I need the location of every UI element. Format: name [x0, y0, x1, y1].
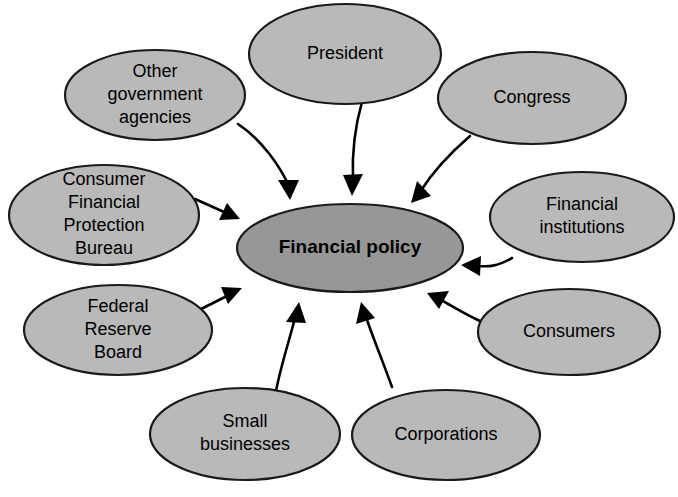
arrowhead-federal-reserve-board	[221, 287, 242, 304]
arrow-federal-reserve-board	[197, 287, 242, 311]
arrow-line-other-government-agencies	[238, 124, 290, 188]
node-financial-policy[interactable]: Financial policy	[237, 204, 463, 292]
node-label-corporations: Corporations	[394, 424, 497, 444]
node-federal-reserve-board[interactable]: FederalReserveBoard	[24, 285, 212, 375]
node-label-federal-reserve-board: Federal	[87, 296, 148, 316]
arrow-line-financial-institutions	[478, 258, 512, 266]
arrow-line-consumers	[441, 300, 480, 321]
node-label-consumers: Consumers	[523, 321, 615, 341]
node-consumer-financial-protection-bureau[interactable]: ConsumerFinancialProtectionBureau	[9, 165, 199, 265]
arrowhead-financial-institutions	[461, 256, 481, 276]
node-label-president: President	[307, 43, 383, 63]
arrowhead-congress	[411, 181, 431, 203]
diagram-canvas: OthergovernmentagenciesPresidentCongress…	[0, 0, 678, 497]
node-label-financial-institutions: Financial	[546, 194, 618, 214]
arrow-congress	[411, 136, 470, 203]
node-label-congress: Congress	[493, 87, 570, 107]
arrowhead-president	[343, 174, 363, 196]
nodes-layer: OthergovernmentagenciesPresidentCongress…	[9, 4, 674, 480]
arrow-line-congress	[420, 136, 470, 192]
node-congress[interactable]: Congress	[438, 52, 626, 144]
node-label-federal-reserve-board: Board	[94, 342, 142, 362]
node-label-financial-institutions: institutions	[539, 217, 624, 237]
arrowhead-consumers	[427, 291, 449, 309]
node-small-businesses[interactable]: Smallbusinesses	[150, 388, 340, 480]
node-label-other-government-agencies: agencies	[119, 107, 191, 127]
arrow-financial-institutions	[461, 256, 512, 276]
node-label-financial-policy: Financial policy	[279, 236, 422, 257]
arrow-line-president	[353, 102, 362, 180]
arrow-line-small-businesses	[276, 318, 295, 391]
arrow-line-corporations	[366, 317, 392, 387]
arrow-consumer-financial-protection-bureau	[195, 199, 240, 220]
node-financial-institutions[interactable]: Financialinstitutions	[490, 172, 674, 262]
arrow-corporations	[356, 302, 392, 387]
node-president[interactable]: President	[249, 4, 441, 104]
node-label-consumer-financial-protection-bureau: Bureau	[75, 238, 133, 258]
node-label-consumer-financial-protection-bureau: Protection	[63, 215, 144, 235]
node-consumers[interactable]: Consumers	[478, 289, 660, 375]
arrow-president	[343, 102, 363, 196]
node-label-small-businesses: Small	[222, 411, 267, 431]
arrow-other-government-agencies	[238, 124, 299, 200]
node-label-consumer-financial-protection-bureau: Financial	[68, 192, 140, 212]
node-corporations[interactable]: Corporations	[352, 390, 540, 480]
node-label-small-businesses: businesses	[200, 434, 290, 454]
arrowhead-small-businesses	[286, 302, 306, 323]
node-label-consumer-financial-protection-bureau: Consumer	[62, 169, 145, 189]
node-label-other-government-agencies: Other	[132, 61, 177, 81]
financial-policy-diagram: OthergovernmentagenciesPresidentCongress…	[0, 0, 678, 497]
node-label-other-government-agencies: government	[107, 84, 202, 104]
node-label-federal-reserve-board: Reserve	[84, 319, 151, 339]
arrow-small-businesses	[276, 302, 306, 391]
arrowhead-corporations	[356, 302, 375, 324]
arrowhead-other-government-agencies	[278, 180, 299, 200]
node-other-government-agencies[interactable]: Othergovernmentagencies	[65, 50, 245, 140]
arrow-consumers	[427, 291, 480, 321]
